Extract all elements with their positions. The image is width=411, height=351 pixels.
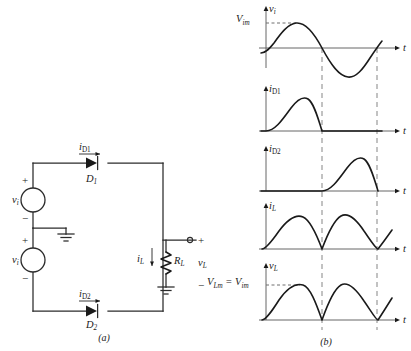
vl-curve bbox=[262, 284, 392, 320]
vi-y-axis-arrow bbox=[264, 6, 269, 11]
sign-plus-bottom: + bbox=[22, 234, 28, 246]
figure-root: iD1 D1 iD2 D2 vi vi + − + − bbox=[0, 0, 411, 351]
diode-d2-triangle bbox=[86, 306, 97, 317]
id1-x-axis-arrow bbox=[395, 129, 400, 133]
vi-peak-label: Vim bbox=[236, 13, 250, 27]
id1-y-axis-arrow bbox=[264, 86, 269, 91]
label-id1: iD1 bbox=[79, 141, 91, 154]
id2-y-axis-label: iD2 bbox=[269, 143, 281, 156]
sign-plus-top: + bbox=[22, 174, 28, 186]
waveform-id1: t iD1 bbox=[259, 83, 407, 136]
current-arrow-id2-head bbox=[96, 299, 101, 303]
vi-y-axis-label: vi bbox=[269, 3, 276, 16]
diode-d1-triangle bbox=[86, 158, 97, 169]
id1-x-axis-label: t bbox=[403, 125, 407, 136]
vl-peak-label: VLm = Vim bbox=[207, 276, 249, 290]
il-curve bbox=[262, 215, 392, 249]
il-x-axis-arrow bbox=[395, 247, 400, 251]
label-id2: iD2 bbox=[79, 288, 91, 301]
vl-x-axis-arrow bbox=[395, 318, 400, 322]
id1-y-axis-label: iD1 bbox=[269, 83, 281, 96]
caption-panel-b: (b) bbox=[320, 336, 332, 348]
label-vl-circuit: vL bbox=[198, 257, 207, 270]
label-rl: RL bbox=[173, 255, 184, 268]
label-d2: D2 bbox=[85, 319, 98, 332]
sign-minus-top: − bbox=[22, 212, 28, 224]
panel-a-circuit: iD1 D1 iD2 D2 vi vi + − + − bbox=[12, 141, 207, 344]
label-vi-top: vi bbox=[12, 194, 19, 207]
current-arrow-id1-head bbox=[96, 152, 101, 156]
vl-y-axis-arrow bbox=[264, 263, 269, 268]
figure-canvas: iD1 D1 iD2 D2 vi vi + − + − bbox=[0, 0, 411, 351]
sign-plus-load: + bbox=[198, 234, 204, 246]
current-arrow-il-head bbox=[150, 262, 154, 267]
label-vi-bottom: vi bbox=[12, 254, 19, 267]
source-top bbox=[21, 188, 45, 212]
label-il: iL bbox=[137, 253, 144, 266]
il-y-axis-arrow bbox=[264, 203, 269, 208]
vi-x-axis-arrow bbox=[395, 46, 400, 50]
ground-load bbox=[158, 287, 174, 294]
sign-minus-bottom: − bbox=[22, 272, 28, 284]
vi-x-axis-label: t bbox=[403, 42, 407, 53]
current-arrow-il bbox=[150, 248, 154, 266]
panel-b-waveforms: t vi Vim t iD1 t iD2 bbox=[207, 3, 407, 348]
waveform-vi: t vi Vim bbox=[236, 3, 407, 77]
waveform-id2: t iD2 bbox=[259, 143, 407, 196]
ground-center-tap bbox=[58, 228, 74, 241]
id2-curve bbox=[261, 158, 378, 191]
id2-x-axis-label: t bbox=[403, 185, 407, 196]
label-d1: D1 bbox=[85, 173, 97, 186]
source-bottom bbox=[21, 248, 45, 272]
vl-x-axis-label: t bbox=[403, 314, 407, 325]
il-y-axis-label: iL bbox=[269, 200, 276, 213]
id2-y-axis-arrow bbox=[264, 146, 269, 151]
diode-d1 bbox=[86, 157, 98, 170]
waveform-il: t iL bbox=[259, 200, 407, 254]
caption-panel-a: (a) bbox=[98, 332, 110, 344]
id2-x-axis-arrow bbox=[395, 189, 400, 193]
il-x-axis-label: t bbox=[403, 243, 407, 254]
diode-d2 bbox=[86, 305, 98, 318]
vl-y-axis-label: vL bbox=[269, 260, 278, 273]
sign-minus-load: − bbox=[198, 279, 204, 291]
